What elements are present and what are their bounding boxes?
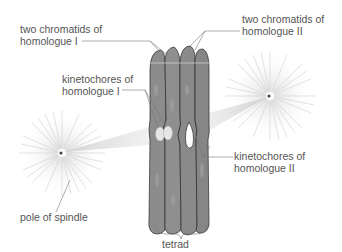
- label-tetrad: tetrad: [162, 238, 189, 250]
- right-spindle-pole-icon: [225, 51, 315, 141]
- label-chromatids-homologue-2: two chromatids of homologue II: [242, 13, 324, 37]
- homologue-1-chromatid-b: [163, 47, 181, 234]
- tetrad-chromosomes: [149, 46, 210, 235]
- label-chromatids-homologue-1: two chromatids of homologue I: [20, 23, 102, 47]
- kinetochore-h1-b: [164, 126, 173, 140]
- homologue-2-chromatid-b: [195, 49, 209, 233]
- label-kinetochores-homologue-2: kinetochores of homologue II: [234, 150, 305, 174]
- label-kinetochores-homologue-1: kinetochores of homologue I: [62, 73, 133, 97]
- diagram-canvas: two chromatids of homologue I two chroma…: [0, 0, 342, 252]
- kinetochore-h1-a: [156, 127, 165, 141]
- left-spindle-pole-icon: [19, 110, 105, 196]
- label-pole-of-spindle: pole of spindle: [20, 211, 88, 223]
- homologue-1-chromatid-a: [149, 50, 166, 234]
